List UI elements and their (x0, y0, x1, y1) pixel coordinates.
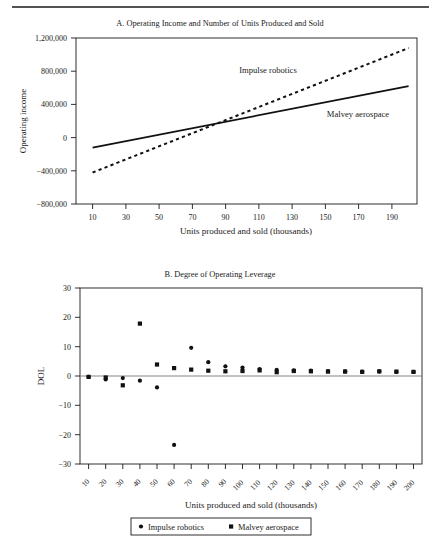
data-point (223, 369, 227, 373)
panel-b-ytick-3: 0 (67, 372, 71, 381)
data-point (309, 369, 313, 373)
panel-a-xtick-5: 110 (253, 213, 265, 222)
data-point (189, 346, 193, 350)
panel-a-ytick-0: 1,200,000 (35, 34, 67, 43)
panel-a-xlabel: Units produced and sold (thousands) (180, 226, 312, 236)
data-point (377, 369, 381, 373)
legend-label-impulse: Impulse robotics (148, 523, 204, 532)
panel-b-ytick-5: −20 (58, 431, 71, 440)
data-point (87, 375, 91, 379)
panel-a-xtick-4: 90 (222, 213, 230, 222)
panel-a-ytick-2: 400,000 (41, 100, 67, 109)
panel-a-xtick-7: 150 (319, 213, 331, 222)
panel-a-label-malvey: Malvey aerospace (327, 109, 389, 119)
data-point (223, 364, 227, 368)
data-point (206, 369, 210, 373)
data-point (258, 368, 262, 372)
data-point (292, 369, 296, 373)
panel-b-ytick-1: 20 (63, 313, 71, 322)
data-point (275, 370, 279, 374)
data-point (155, 362, 159, 366)
data-point (104, 375, 108, 379)
data-point (394, 370, 398, 374)
panel-b-title: B. Degree of Operating Leverage (165, 270, 276, 279)
panel-a-xtick-2: 50 (155, 213, 163, 222)
panel-b-ylabel: DOL (36, 367, 46, 386)
panel-a-xtick-3: 70 (188, 213, 196, 222)
panel-a-xtick-8: 170 (353, 213, 365, 222)
data-point (360, 370, 364, 374)
panel-a-xtick-9: 190 (386, 213, 398, 222)
panel-b-ytick-2: 10 (63, 343, 71, 352)
panel-a-ytick-1: 800,000 (41, 67, 67, 76)
panel-a-label-impulse: Impulse robotics (239, 65, 297, 75)
data-point (240, 369, 244, 373)
data-point (121, 376, 125, 380)
panel-a-xtick-6: 130 (286, 213, 298, 222)
data-point (189, 368, 193, 372)
panel-a-ytick-4: −400,000 (36, 167, 67, 176)
panel-b-xlabel: Units produced and sold (thousands) (185, 500, 317, 510)
panel-a-xtick-0: 10 (89, 213, 97, 222)
panel-b-ytick-4: −10 (58, 401, 71, 410)
data-point (326, 370, 330, 374)
legend-marker-impulse-icon (139, 524, 143, 528)
legend-marker-malvey-icon (229, 524, 233, 528)
data-point (172, 366, 176, 370)
legend-label-malvey: Malvey aerospace (238, 523, 299, 532)
panel-b-ytick-6: −30 (58, 460, 71, 469)
figure-root: A. Operating Income and Number of Units … (0, 0, 441, 548)
data-point (138, 379, 142, 383)
data-point (172, 443, 176, 447)
panel-a-ytick-5: −800,000 (36, 200, 67, 209)
data-point (343, 370, 347, 374)
data-point (138, 322, 142, 326)
panel-b-ytick-0: 30 (63, 284, 71, 293)
data-point (206, 360, 210, 364)
data-point (411, 370, 415, 374)
data-point (121, 383, 125, 387)
data-point (155, 385, 159, 389)
panel-a-ylabel: Operating income (18, 89, 28, 154)
panel-a-xtick-1: 30 (122, 213, 130, 222)
panel-a-title: A. Operating Income and Number of Units … (116, 19, 324, 28)
panel-a-ytick-3: 0 (63, 134, 67, 143)
